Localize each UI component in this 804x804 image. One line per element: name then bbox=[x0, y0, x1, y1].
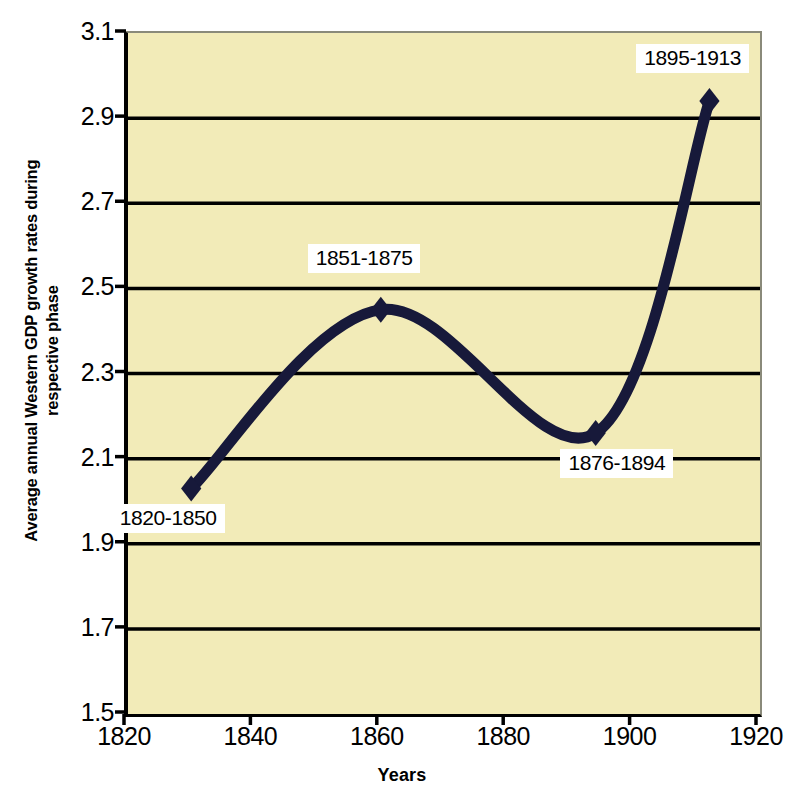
x-axis-tick-label: 1920 bbox=[729, 722, 783, 751]
y-axis-tick-label: 2.7 bbox=[81, 187, 114, 216]
x-axis-tick-label: 1860 bbox=[350, 722, 404, 751]
y-axis-tick-label: 2.9 bbox=[81, 102, 114, 131]
point-label: 1851-1875 bbox=[308, 244, 421, 273]
plot-area bbox=[124, 31, 762, 717]
x-axis-tick-label: 1880 bbox=[476, 722, 530, 751]
y-axis-tick-label: 2.5 bbox=[81, 272, 114, 301]
point-label: 1876-1894 bbox=[560, 449, 673, 478]
x-axis-tick-label: 1820 bbox=[97, 722, 151, 751]
y-axis-tick-label: 2.1 bbox=[81, 442, 114, 471]
x-axis-tick-labels: 182018401860188019001920 bbox=[124, 722, 756, 762]
y-axis-tick-label: 2.3 bbox=[81, 357, 114, 386]
y-axis-title-line-1: Average annual Western GDP growth rates … bbox=[21, 51, 42, 651]
x-axis-tick-label: 1900 bbox=[603, 722, 657, 751]
data-series-line bbox=[128, 33, 760, 714]
chart-container: Average annual Western GDP growth rates … bbox=[0, 0, 804, 804]
point-label: 1895-1913 bbox=[636, 44, 749, 73]
y-axis-tick-label: 1.9 bbox=[81, 527, 114, 556]
y-axis-tick-labels: 1.51.71.92.12.32.52.72.93.1 bbox=[54, 31, 114, 712]
x-axis-tick-label: 1840 bbox=[224, 722, 278, 751]
y-axis-tick-label: 1.7 bbox=[81, 612, 114, 641]
point-label: 1820-1850 bbox=[112, 504, 225, 533]
data-point-marker bbox=[371, 297, 391, 323]
series-line bbox=[191, 101, 709, 488]
x-axis-title: Years bbox=[0, 765, 804, 786]
y-axis-tick-label: 3.1 bbox=[81, 17, 114, 46]
